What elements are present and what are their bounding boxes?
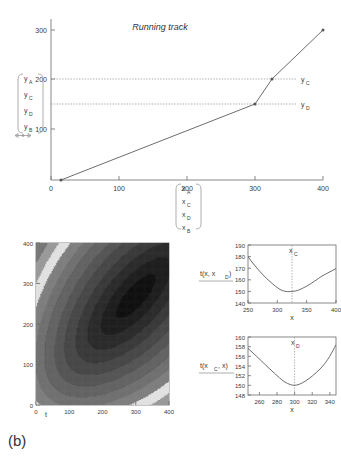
panel-label: (b): [8, 432, 26, 449]
svg-text:y: y: [301, 76, 305, 84]
x-tick-400: 400: [317, 185, 329, 192]
profile-bottom-y-tick-156: 156: [235, 354, 246, 360]
svg-text:y: y: [301, 101, 305, 109]
contour-y-tick-300: 300: [23, 281, 34, 287]
profile-bottom-chart: 160 158 156 154 152 150 148 260 280 300 …: [199, 335, 336, 414]
x-tick-0: 0: [49, 185, 53, 192]
track-line: [61, 30, 323, 180]
profile-top-x-tick-300: 300: [272, 307, 283, 313]
profile-bottom-x-tick-340: 340: [325, 399, 336, 405]
y-variable-bracket: y A y C y D y B: [18, 74, 43, 133]
svg-text:D: D: [29, 111, 33, 117]
profile-top-chart: 190 180 170 160 150 140 250 300 350 400 …: [199, 243, 341, 322]
right-label-yc: y C: [301, 76, 310, 86]
svg-text:x: x: [182, 185, 186, 192]
y-tick-300: 300: [35, 27, 47, 34]
contour-chart: 400 300 200 100 0 0 100 200 300 400 t: [23, 241, 175, 419]
svg-text:y: y: [24, 123, 28, 131]
svg-text:x: x: [291, 339, 295, 346]
x-tick-300: 300: [249, 185, 261, 192]
y-axis-ticks: 300 200 100: [35, 27, 55, 133]
profile-bottom-y-tick-152: 152: [235, 373, 246, 379]
profile-top-y-tick-150: 150: [235, 289, 246, 295]
profile-bottom-x-tick-280: 280: [272, 399, 283, 405]
x-bracket-item-xb: x B: [182, 224, 191, 234]
profile-bottom-y-tick-158: 158: [235, 344, 246, 350]
svg-text:): ): [229, 270, 231, 278]
y-tick-100: 100: [35, 126, 47, 133]
profile-bottom-y-tick-154: 154: [235, 364, 246, 370]
svg-text:B: B: [29, 127, 33, 133]
profile-bottom-y-tick-148: 148: [235, 393, 246, 399]
svg-text:x: x: [182, 224, 186, 231]
profile-top-y-tick-180: 180: [235, 254, 246, 260]
svg-text:, x): , x): [218, 362, 228, 370]
profile-bottom-x-tick-300: 300: [290, 399, 301, 405]
svg-text:t(x: t(x: [200, 362, 208, 370]
contour-field: [36, 243, 170, 406]
right-label-yd-sub: D: [306, 105, 310, 111]
svg-text:x: x: [289, 247, 293, 254]
chart-title: Running track: [132, 22, 188, 32]
profile-bottom-x-tick-260: 260: [254, 399, 265, 405]
profile-bottom-x-axis-label: x: [290, 406, 294, 413]
y-bracket-item-yc: y C: [24, 91, 33, 101]
y-tick-200: 200: [35, 76, 47, 83]
y-bracket-item-yd: y D: [24, 107, 33, 117]
profile-top-x-tick-350: 350: [302, 307, 313, 313]
y-bracket-item-ya: y A: [24, 75, 33, 85]
contour-y-tick-400: 400: [23, 241, 34, 247]
svg-text:x: x: [182, 211, 186, 218]
svg-text:C: C: [29, 95, 33, 101]
contour-x-tick-200: 200: [97, 409, 108, 415]
svg-text:x: x: [182, 198, 186, 205]
svg-text:C: C: [294, 251, 298, 257]
svg-text:t(x, x: t(x, x: [200, 270, 216, 278]
profile-top-y-tick-160: 160: [235, 277, 246, 283]
profile-bottom-y-tick-160: 160: [235, 335, 246, 341]
profile-top-y-tick-170: 170: [235, 266, 246, 272]
contour-x-tick-400: 400: [164, 409, 175, 415]
right-label-yc-sub: C: [306, 80, 310, 86]
right-label-yd: y D: [301, 101, 310, 111]
svg-text:D: D: [187, 215, 191, 221]
contour-y-tick-200: 200: [23, 322, 34, 328]
contour-x-tick-0: 0: [34, 409, 38, 415]
profile-bottom-y-axis-label: t(x C , x): [199, 362, 234, 373]
profile-bottom-y-tick-150: 150: [235, 383, 246, 389]
contour-x-axis-label: t: [45, 411, 47, 418]
svg-text:B: B: [187, 228, 191, 234]
x-bracket-item-xc: x C: [182, 198, 191, 208]
y-bracket-item-yb: y B: [24, 123, 33, 133]
profile-top-x-tick-400: 400: [331, 307, 341, 313]
profile-top-x-tick-250: 250: [243, 307, 254, 313]
x-variable-bracket: x A x C x D x B: [176, 184, 201, 234]
figure-panel-b: Running track 300 200 100 0 100 200 300 …: [0, 0, 341, 462]
x-bracket-item-xd: x D: [182, 211, 191, 221]
svg-text:A: A: [29, 79, 33, 85]
profile-top-y-axis-label: t(x, x D ): [199, 270, 233, 281]
contour-y-tick-100: 100: [23, 362, 34, 368]
svg-text:D: D: [296, 343, 300, 349]
profile-top-y-tick-190: 190: [235, 243, 246, 249]
figure-svg: Running track 300 200 100 0 100 200 300 …: [0, 0, 341, 462]
range-arrow-marker: [15, 134, 31, 138]
track-markers: [60, 29, 325, 182]
svg-text:C: C: [187, 202, 191, 208]
contour-x-tick-300: 300: [131, 409, 142, 415]
profile-bottom-x-tick-320: 320: [307, 399, 318, 405]
x-tick-100: 100: [113, 185, 125, 192]
contour-y-tick-0: 0: [30, 403, 34, 409]
contour-x-tick-100: 100: [64, 409, 75, 415]
svg-text:y: y: [24, 75, 28, 83]
svg-text:y: y: [24, 107, 28, 115]
svg-text:y: y: [24, 91, 28, 99]
running-track-chart: Running track 300 200 100 0 100 200 300 …: [15, 19, 329, 234]
profile-top-x-axis-label: x: [290, 314, 294, 321]
